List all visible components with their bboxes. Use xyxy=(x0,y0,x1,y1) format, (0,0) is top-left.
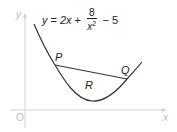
equation: y = 2x + 8 x2 − 5 xyxy=(42,8,118,32)
region-r-label: R xyxy=(85,80,93,91)
equation-term1: 2x xyxy=(60,14,72,26)
x-axis-label: x xyxy=(163,113,168,123)
denominator-exponent: 2 xyxy=(92,20,96,27)
equation-minus: − xyxy=(103,14,109,26)
fraction-denominator: x2 xyxy=(87,19,96,32)
y-axis-arrow-icon xyxy=(23,13,27,18)
y-axis-label: y xyxy=(16,10,21,20)
fraction-numerator: 8 xyxy=(87,8,97,19)
point-q-label: Q xyxy=(121,65,130,76)
chord-pq xyxy=(55,65,127,79)
function-graph-diagram: y x O y = 2x + 8 x2 − 5 P Q R xyxy=(0,0,177,132)
equation-plus: + xyxy=(75,14,81,26)
equation-fraction: 8 x2 xyxy=(87,8,97,32)
origin-label: O xyxy=(16,113,24,123)
point-p-label: P xyxy=(55,52,62,63)
equation-equals: = xyxy=(51,14,57,26)
equation-lhs: y xyxy=(42,14,48,26)
equation-constant: 5 xyxy=(112,14,118,26)
